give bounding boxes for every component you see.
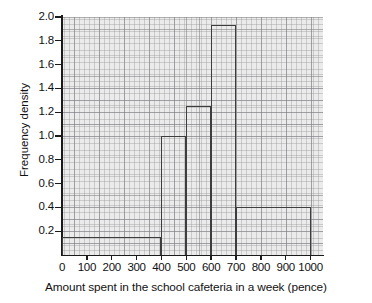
y-tick-mark xyxy=(55,112,61,113)
y-tick-mark xyxy=(55,64,61,65)
x-tick-mark xyxy=(136,255,137,260)
y-tick-mark xyxy=(55,135,61,136)
y-tick-label: 2.0 xyxy=(14,11,54,23)
x-tick-mark xyxy=(260,255,261,260)
x-tick-mark xyxy=(161,255,162,260)
y-axis-line xyxy=(61,15,63,256)
histogram-bar xyxy=(186,106,211,255)
y-tick-mark xyxy=(55,16,61,17)
x-tick-mark xyxy=(285,255,286,260)
x-tick-mark xyxy=(111,255,112,260)
x-tick-mark xyxy=(310,255,311,260)
y-axis-label: Frequency density xyxy=(18,30,30,230)
histogram-bar xyxy=(236,207,311,255)
histogram-figure: 0.20.40.60.81.01.21.41.61.82.0 010020030… xyxy=(0,0,372,303)
y-tick-mark xyxy=(55,40,61,41)
x-axis-label: Amount spent in the school cafeteria in … xyxy=(0,281,372,294)
x-tick-label: 1000 xyxy=(291,261,331,273)
y-tick-mark xyxy=(55,159,61,160)
histogram-bar xyxy=(62,237,161,255)
y-tick-mark xyxy=(55,207,61,208)
x-tick-mark xyxy=(186,255,187,260)
y-tick-mark xyxy=(55,231,61,232)
x-tick-mark xyxy=(86,255,87,260)
y-tick-mark xyxy=(55,88,61,89)
x-tick-mark xyxy=(210,255,211,260)
y-tick-mark xyxy=(55,183,61,184)
histogram-bar xyxy=(161,136,186,255)
histogram-bar xyxy=(211,25,236,255)
x-tick-mark xyxy=(235,255,236,260)
